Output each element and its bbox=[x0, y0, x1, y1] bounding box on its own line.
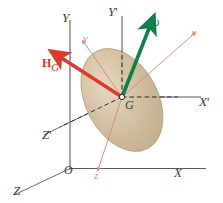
label-body-x: x bbox=[191, 27, 196, 38]
label-body-y: y bbox=[83, 33, 88, 44]
label-Z-prime-mark: ' bbox=[49, 127, 51, 142]
label-Y-prime-mark: ' bbox=[115, 4, 117, 19]
label-H-G: HG bbox=[42, 54, 59, 73]
label-omega: ω bbox=[151, 16, 159, 28]
label-translating-Y-prime: Y' bbox=[108, 5, 118, 18]
label-H-letter: H bbox=[42, 56, 51, 70]
label-X-letter: X bbox=[199, 94, 207, 109]
label-fixed-X: X bbox=[174, 166, 182, 179]
label-translating-X-prime: X' bbox=[199, 95, 209, 108]
axis-fixed-Z bbox=[14, 169, 70, 196]
label-fixed-Z: Z bbox=[13, 184, 20, 197]
label-center-G: G bbox=[125, 99, 134, 111]
label-translating-Z-prime: Z' bbox=[42, 128, 52, 141]
diagram-canvas bbox=[0, 0, 223, 203]
label-X-prime-mark: ' bbox=[207, 94, 209, 109]
label-G-subscript: G bbox=[51, 61, 59, 73]
label-origin-O: O bbox=[64, 164, 73, 176]
label-body-z: z bbox=[94, 170, 98, 181]
point-G-marker bbox=[119, 94, 124, 99]
label-fixed-Y: Y bbox=[62, 11, 69, 24]
